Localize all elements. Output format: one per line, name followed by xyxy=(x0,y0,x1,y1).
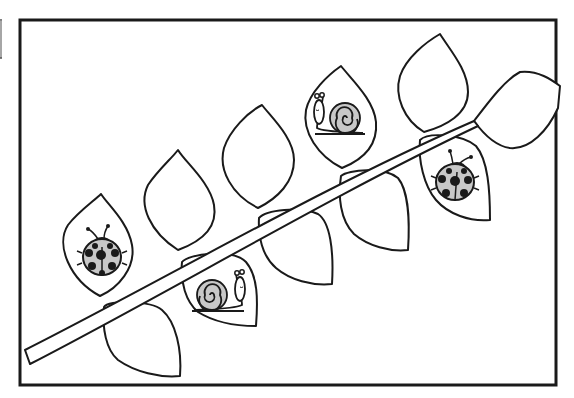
coloring-page: Black-and-white coloring page: a diagona… xyxy=(0,0,574,398)
left-edge-fragment xyxy=(0,20,2,58)
